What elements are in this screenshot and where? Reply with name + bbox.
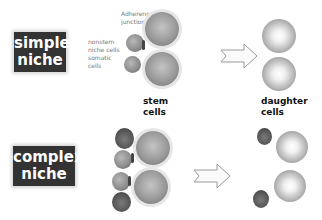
label-line: simple <box>14 35 66 52</box>
label-line: complex <box>13 149 75 166</box>
daughter-cells-caption: daughter cells <box>261 96 308 118</box>
caption-line: stem <box>143 96 168 107</box>
daughter-cell <box>276 131 308 163</box>
adherence-junction <box>142 40 145 50</box>
stem-cell <box>136 131 170 165</box>
niche-cell <box>114 150 132 169</box>
right-arrow-icon <box>193 163 231 189</box>
annotation-line: niche cells <box>88 46 120 54</box>
annotation-line: cells <box>88 62 120 70</box>
annotation-line: nonstem <box>88 38 120 46</box>
daughter-cell <box>262 19 296 53</box>
annotation-line: somatic <box>88 54 120 62</box>
stem-cell <box>134 170 168 204</box>
nonstem-niche-cells-annotation: nonstem niche cells somatic cells <box>88 38 120 70</box>
right-arrow-icon <box>220 43 258 69</box>
niche-cell-dark <box>112 192 131 212</box>
simple-niche-label: simple niche <box>14 32 66 72</box>
niche-cell-dark <box>253 190 269 208</box>
stem-cell <box>145 12 179 46</box>
niche-cell-dark <box>115 128 134 149</box>
caption-line: daughter <box>261 96 308 107</box>
label-line: niche <box>14 52 66 69</box>
stem-cell <box>145 52 179 86</box>
daughter-cell <box>274 170 306 202</box>
adherence-junction <box>128 176 131 186</box>
daughter-cell <box>262 57 296 91</box>
stem-cells-caption: stem cells <box>143 96 168 118</box>
complex-niche-label: complex niche <box>13 146 75 186</box>
label-line: niche <box>13 166 75 183</box>
niche-cell <box>124 56 141 73</box>
adherence-junction <box>131 153 134 163</box>
caption-line: cells <box>143 107 168 118</box>
caption-line: cells <box>261 107 308 118</box>
niche-cell-dark <box>257 128 272 145</box>
